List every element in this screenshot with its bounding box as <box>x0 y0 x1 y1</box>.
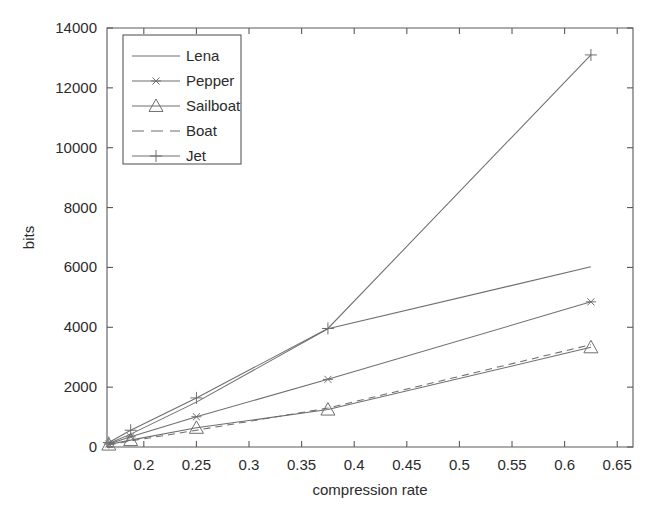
x-tick-label: 0.65 <box>603 456 632 473</box>
y-tick-label: 4000 <box>64 318 97 335</box>
legend-label: Boat <box>186 122 218 139</box>
y-tick-label: 10000 <box>55 139 97 156</box>
y-axis-title: bits <box>20 226 37 249</box>
x-tick-label: 0.2 <box>133 456 154 473</box>
chart-legend: LenaPepperSailboatBoatJet <box>123 35 241 164</box>
x-tick-label: 0.55 <box>497 456 526 473</box>
y-tick-label: 8000 <box>64 199 97 216</box>
x-tick-label: 0.25 <box>182 456 211 473</box>
x-axis-title: compression rate <box>312 481 427 498</box>
legend-label: Jet <box>186 147 207 164</box>
x-tick-label: 0.35 <box>287 456 316 473</box>
x-tick-label: 0.3 <box>239 456 260 473</box>
y-tick-label: 14000 <box>55 19 97 36</box>
chart-figure: 0.20.250.30.350.40.450.50.550.60.65 0200… <box>0 0 653 507</box>
x-tick-label: 0.5 <box>449 456 470 473</box>
legend-label: Pepper <box>186 72 234 89</box>
series-line <box>109 345 591 445</box>
series-boat <box>109 345 591 445</box>
x-tick-label: 0.45 <box>392 456 421 473</box>
y-tick-label: 0 <box>89 438 97 455</box>
x-tick-label: 0.4 <box>344 456 365 473</box>
x-tick-label: 0.6 <box>554 456 575 473</box>
y-tick-label: 2000 <box>64 378 97 395</box>
triangle-marker <box>584 340 598 352</box>
series-pepper <box>104 298 596 447</box>
y-tick-label: 6000 <box>64 258 97 275</box>
series-line <box>109 267 591 444</box>
line-chart-canvas: 0.20.250.30.350.40.450.50.550.60.65 0200… <box>0 0 653 507</box>
legend-label: Lena <box>186 47 220 64</box>
legend-label: Sailboat <box>186 97 241 114</box>
series-lena <box>109 267 591 444</box>
y-tick-label: 12000 <box>55 79 97 96</box>
series-sailboat <box>102 340 598 450</box>
series-line <box>109 347 591 444</box>
